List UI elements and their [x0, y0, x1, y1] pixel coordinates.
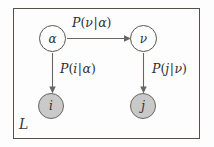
- node-j-label: j: [141, 100, 145, 112]
- node-nu[interactable]: ν: [130, 25, 157, 52]
- node-nu-label: ν: [140, 32, 147, 44]
- node-i[interactable]: i: [38, 93, 64, 119]
- node-j[interactable]: j: [130, 93, 156, 119]
- diagram-canvas: L α ν i j P(ν|α) P(i|α): [0, 0, 214, 147]
- parent-var: ν: [174, 61, 182, 76]
- edge-label-p-i-given-alpha: P(i|α): [60, 63, 96, 76]
- parent-var: α: [98, 15, 106, 30]
- plate-label: L: [19, 117, 28, 131]
- paren-close: ): [107, 15, 112, 30]
- paren-close: ): [91, 61, 96, 76]
- child-var: ν: [85, 15, 93, 30]
- node-i-label: i: [49, 100, 53, 112]
- node-alpha[interactable]: α: [39, 25, 66, 52]
- parent-var: α: [83, 61, 91, 76]
- edge-label-p-nu-given-alpha: P(ν|α): [72, 17, 111, 30]
- paren-close: ): [182, 61, 187, 76]
- edge-label-p-j-given-nu: P(j|ν): [152, 63, 187, 76]
- node-alpha-label: α: [48, 32, 56, 44]
